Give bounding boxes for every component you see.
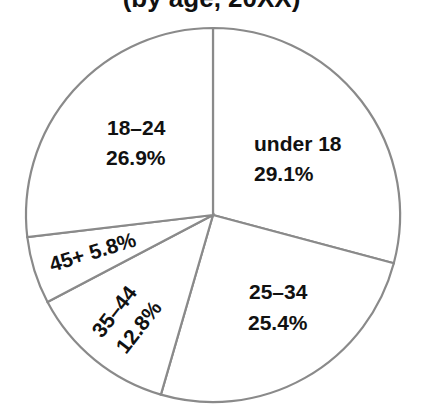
label-under-18-value: 29.1%: [254, 162, 314, 185]
pie-chart: under 18 29.1% 18–24 26.9% 25–34 25.4% 4…: [0, 0, 423, 415]
label-25-34-value: 25.4%: [248, 311, 308, 334]
pie-slices: [26, 28, 400, 402]
label-25-34-name: 25–34: [249, 280, 308, 303]
label-18-24-value: 26.9%: [106, 146, 166, 169]
label-under-18-name: under 18: [254, 132, 342, 155]
label-18-24-name: 18–24: [107, 116, 166, 139]
